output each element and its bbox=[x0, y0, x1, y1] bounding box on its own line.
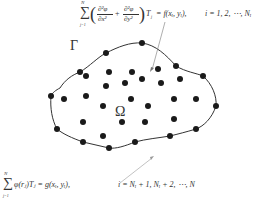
interior-node bbox=[128, 96, 134, 102]
sum-lower: j=1 bbox=[80, 22, 86, 27]
interior-node bbox=[129, 69, 135, 75]
interior-node bbox=[80, 119, 86, 125]
interior-node bbox=[171, 116, 177, 122]
boundary-node bbox=[132, 139, 138, 145]
interior-node bbox=[61, 96, 67, 102]
interior-node bbox=[145, 103, 151, 109]
boundary-node bbox=[139, 40, 145, 46]
interior-arrow-head bbox=[150, 67, 154, 72]
gamma-label: Γ bbox=[70, 38, 78, 54]
boundary-node bbox=[80, 139, 86, 145]
interior-node bbox=[83, 73, 89, 79]
boundary-node bbox=[106, 145, 112, 151]
omega-label: Ω bbox=[115, 104, 125, 120]
interior-node bbox=[103, 83, 109, 89]
interior-arrow bbox=[152, 22, 165, 70]
domain-diagram bbox=[0, 0, 264, 201]
interior-node bbox=[100, 103, 106, 109]
boundary-node bbox=[77, 69, 83, 75]
boundary-node bbox=[193, 126, 199, 132]
interior-node bbox=[158, 80, 164, 86]
boundary-node bbox=[48, 93, 54, 99]
interior-node bbox=[122, 80, 128, 86]
boundary-node bbox=[200, 73, 206, 79]
boundary-node bbox=[54, 126, 60, 132]
interior-node bbox=[177, 76, 183, 82]
interior-node bbox=[139, 76, 145, 82]
interior-node bbox=[100, 133, 106, 139]
interior-node bbox=[193, 96, 199, 102]
interior-node bbox=[155, 66, 161, 72]
collocation-nodes bbox=[48, 40, 219, 151]
boundary-node bbox=[103, 50, 109, 56]
interior-node bbox=[83, 93, 89, 99]
boundary-node bbox=[167, 133, 173, 139]
sum-symbol: ∑ bbox=[80, 4, 90, 20]
interior-node bbox=[171, 96, 177, 102]
boundary-node bbox=[173, 63, 179, 69]
boundary-curve bbox=[51, 43, 216, 148]
boundary-node bbox=[213, 103, 219, 109]
interior-node bbox=[142, 119, 148, 125]
interior-node bbox=[106, 69, 112, 75]
